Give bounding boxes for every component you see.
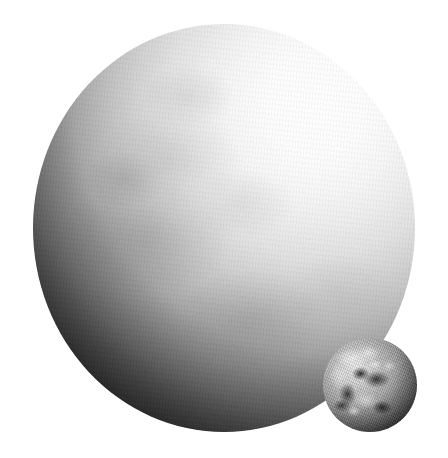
planet-earth (323, 338, 417, 432)
image-canvas (0, 0, 448, 458)
earth-limb-darkening (323, 338, 417, 432)
